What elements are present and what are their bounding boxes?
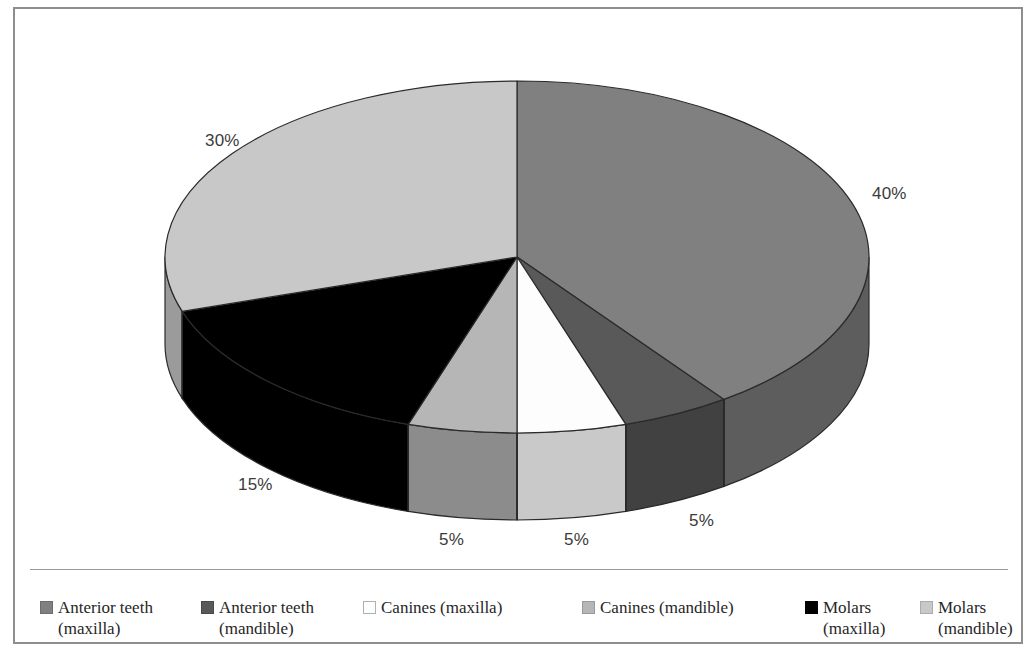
pie-percentage-label-1: 5% <box>689 511 714 531</box>
legend-item-label: Canines (maxilla) <box>381 597 502 618</box>
legend-molars-mandible[interactable]: Molars (mandible) <box>920 597 1013 639</box>
legend-item-label: Anterior teeth (mandible) <box>219 597 314 639</box>
legend-swatch-icon <box>805 601 818 614</box>
legend-swatch-icon <box>363 601 376 614</box>
pie-percentage-label-3: 5% <box>439 530 464 550</box>
figure-root: 40%5%5%5%15%30% Anterior teeth (maxilla)… <box>0 0 1036 663</box>
legend-swatch-icon <box>201 601 214 614</box>
legend-anterior-teeth-maxilla[interactable]: Anterior teeth (maxilla) <box>40 597 153 639</box>
legend-item-label: Canines (mandible) <box>600 597 734 618</box>
chart-legend: Anterior teeth (maxilla)Anterior teeth (… <box>15 577 1021 643</box>
pie-chart-svg <box>15 9 1021 569</box>
legend-canines-maxilla[interactable]: Canines (maxilla) <box>363 597 502 618</box>
pie-slice-side-3 <box>408 424 517 520</box>
legend-anterior-teeth-mandible[interactable]: Anterior teeth (mandible) <box>201 597 314 639</box>
legend-item-label: Anterior teeth (maxilla) <box>58 597 153 639</box>
legend-item-label: Molars (mandible) <box>938 597 1013 639</box>
pie-chart-plot-area: 40%5%5%5%15%30% <box>15 9 1021 569</box>
legend-swatch-icon <box>920 601 933 614</box>
pie-percentage-label-2: 5% <box>564 530 589 550</box>
pie-slice-side-2 <box>517 424 626 520</box>
legend-swatch-icon <box>40 601 53 614</box>
pie-percentage-label-5: 30% <box>205 131 240 151</box>
legend-swatch-icon <box>582 601 595 614</box>
legend-molars-maxilla[interactable]: Molars (maxilla) <box>805 597 885 639</box>
legend-item-label: Molars (maxilla) <box>823 597 885 639</box>
legend-canines-mandible[interactable]: Canines (mandible) <box>582 597 734 618</box>
chart-frame: 40%5%5%5%15%30% Anterior teeth (maxilla)… <box>13 7 1023 644</box>
pie-percentage-label-4: 15% <box>238 475 273 495</box>
pie-percentage-label-0: 40% <box>872 184 907 204</box>
pie-top-faces <box>165 81 869 433</box>
legend-divider <box>30 569 1008 570</box>
